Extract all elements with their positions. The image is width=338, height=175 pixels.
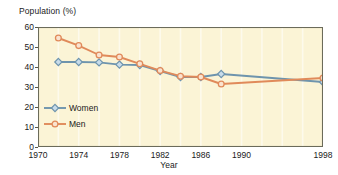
- data-point: [55, 35, 61, 41]
- data-point: [76, 43, 82, 49]
- y-tick-mark: [35, 147, 38, 148]
- data-point: [178, 73, 184, 79]
- x-axis-title: Year: [0, 160, 338, 170]
- y-tick-40: 40: [14, 62, 34, 72]
- data-point: [137, 61, 143, 67]
- y-tick-60: 60: [14, 22, 34, 32]
- y-tick-30: 30: [14, 82, 34, 92]
- x-tick-1990: 1990: [222, 150, 262, 160]
- x-tick-1986: 1986: [181, 150, 221, 160]
- legend-label-men: Men: [69, 119, 86, 129]
- y-tick-20: 20: [14, 102, 34, 112]
- data-point: [157, 68, 163, 74]
- legend-label-women: Women: [69, 103, 98, 113]
- plot-svg: [38, 27, 323, 147]
- x-tick-1978: 1978: [99, 150, 139, 160]
- x-tick-1982: 1982: [140, 150, 180, 160]
- data-point: [96, 52, 102, 58]
- data-point: [218, 81, 224, 87]
- x-tick-1970: 1970: [18, 150, 58, 160]
- y-tick-50: 50: [14, 42, 34, 52]
- plot-area: [38, 27, 323, 147]
- legend-marker-women: [44, 102, 66, 114]
- x-tick-1974: 1974: [59, 150, 99, 160]
- legend-marker-men: [44, 118, 66, 130]
- y-axis-title: Population (%): [19, 6, 76, 16]
- y-tick-10: 10: [14, 122, 34, 132]
- x-tick-1998: 1998: [303, 150, 338, 160]
- population-line-chart: Population (%) Year 0102030405060 197019…: [0, 0, 338, 175]
- data-point: [198, 74, 204, 80]
- data-point: [117, 54, 123, 60]
